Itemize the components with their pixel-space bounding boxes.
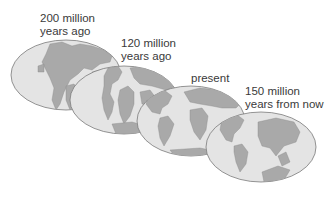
- label-line: present: [191, 72, 229, 85]
- label-present: present: [191, 72, 229, 85]
- label-line: years from now: [245, 98, 324, 111]
- globe-150-million-years-from-now: [206, 112, 316, 182]
- label-line: 150 million: [245, 85, 324, 98]
- label-line: years ago: [121, 50, 176, 63]
- label-line: years ago: [40, 25, 95, 38]
- label-150-million-years-from-now: 150 million years from now: [245, 85, 324, 111]
- label-120-million-years-ago: 120 million years ago: [121, 37, 176, 63]
- label-line: 120 million: [121, 37, 176, 50]
- label-200-million-years-ago: 200 million years ago: [40, 12, 95, 38]
- label-line: 200 million: [40, 12, 95, 25]
